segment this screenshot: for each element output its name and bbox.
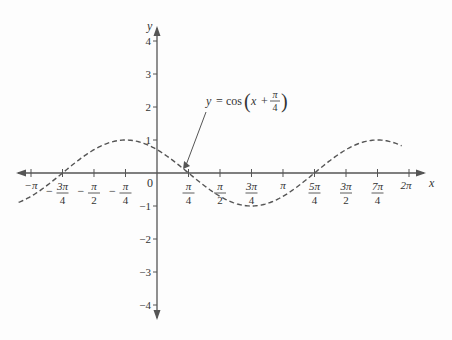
svg-text:3π: 3π xyxy=(245,180,258,192)
x-axis-left-arrow-icon xyxy=(16,170,26,177)
annotation-arrow-line xyxy=(186,112,206,165)
svg-text:3π: 3π xyxy=(56,180,69,192)
y-axis-label: y xyxy=(146,19,153,33)
x-tick-label: 7π4 xyxy=(372,180,384,206)
x-tick-label: −π2 xyxy=(78,180,100,206)
y-axis-down-arrow-icon xyxy=(154,310,161,320)
x-tick-label: 2π xyxy=(400,179,412,191)
y-tick-label: 2 xyxy=(146,101,152,113)
svg-text:x: x xyxy=(250,94,257,108)
svg-text:π: π xyxy=(217,180,223,192)
annotation-arrowhead-icon xyxy=(183,161,190,169)
svg-text:y: y xyxy=(205,94,212,108)
y-tick-label: −1 xyxy=(139,200,151,212)
svg-text:π: π xyxy=(280,179,286,191)
x-tick-label: −π4 xyxy=(109,180,131,206)
svg-text:5π: 5π xyxy=(309,180,321,192)
svg-text:7π: 7π xyxy=(372,180,384,192)
svg-text:−: − xyxy=(78,184,85,198)
plot-area: xy −π−3π4−π2−π40π4π23π4π5π43π27π42π−4−3−… xyxy=(0,0,452,340)
axes: xy xyxy=(16,19,435,320)
x-tick-label: −π xyxy=(25,179,38,191)
x-tick-label: 3π2 xyxy=(339,180,352,206)
svg-text:2: 2 xyxy=(343,194,349,206)
svg-text:π: π xyxy=(123,180,129,192)
y-tick-label: −2 xyxy=(139,233,151,245)
svg-text:4: 4 xyxy=(312,194,318,206)
svg-text:4: 4 xyxy=(123,194,129,206)
y-tick-label: −3 xyxy=(139,266,151,278)
svg-text:3π: 3π xyxy=(339,180,352,192)
x-tick-label: π xyxy=(280,179,286,191)
svg-text:4: 4 xyxy=(249,194,255,206)
y-tick-label: 3 xyxy=(146,68,152,80)
svg-text:2: 2 xyxy=(91,194,97,206)
svg-text:4: 4 xyxy=(186,194,192,206)
svg-text:+: + xyxy=(261,94,268,108)
x-tick-label: 5π4 xyxy=(308,180,320,206)
x-tick-label-0: 0 xyxy=(147,176,153,190)
svg-text:(: ( xyxy=(244,90,251,113)
annotation-equation: y=cos(x+π4) xyxy=(205,89,288,113)
x-tick-label: π4 xyxy=(183,180,195,206)
svg-text:π: π xyxy=(186,180,192,192)
chart-figure: xy −π−3π4−π2−π40π4π23π4π5π43π27π42π−4−3−… xyxy=(0,0,452,340)
y-tick-label: 4 xyxy=(146,35,152,47)
svg-text:): ) xyxy=(281,90,288,113)
svg-text:4: 4 xyxy=(273,102,278,113)
x-axis-label: x xyxy=(428,176,435,190)
svg-text:2π: 2π xyxy=(400,179,412,191)
y-axis-up-arrow-icon xyxy=(154,26,161,36)
svg-text:π: π xyxy=(91,180,97,192)
svg-text:4: 4 xyxy=(60,194,66,206)
svg-text:π: π xyxy=(272,89,278,100)
svg-text:−π: −π xyxy=(25,179,38,191)
curve-annotation: y=cos(x+π4) xyxy=(183,89,288,169)
svg-text:4: 4 xyxy=(375,194,381,206)
y-tick-label: −4 xyxy=(139,299,151,311)
x-axis-right-arrow-icon xyxy=(416,170,426,177)
svg-text:cos: cos xyxy=(226,94,242,108)
x-tick-label: 3π4 xyxy=(245,180,258,206)
svg-text:−: − xyxy=(109,184,116,198)
svg-text:=: = xyxy=(216,94,223,108)
